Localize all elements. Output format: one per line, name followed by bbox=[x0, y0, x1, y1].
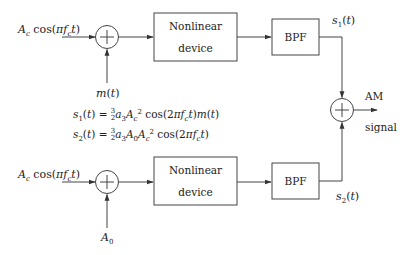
bottom-carrier-label: Ac cos(πfct) bbox=[18, 169, 80, 183]
bottom-bpf-text: BPF bbox=[272, 176, 319, 187]
top-nonlinear-text-1: Nonlinear bbox=[154, 21, 237, 32]
top-nonlinear-text-2: device bbox=[154, 43, 237, 54]
s1-label: s1(t) bbox=[332, 15, 355, 29]
bottom-nonlinear-text-2: device bbox=[154, 187, 237, 198]
top-bpf-to-out-wire bbox=[319, 37, 342, 98]
signal-label: signal bbox=[365, 122, 397, 133]
am-label: AM bbox=[365, 91, 383, 102]
equation-s2: s2(t) = 32a3A0Ac2 cos(2πfct) bbox=[73, 128, 209, 143]
top-carrier-label: Ac cos(πfct) bbox=[18, 24, 80, 38]
top-m-label: m(t) bbox=[96, 88, 119, 99]
equation-s1: s1(t) = 32a3Ac2 cos(2πfct)m(t) bbox=[73, 108, 219, 123]
a0-label: A0 bbox=[101, 232, 113, 246]
top-bpf-text: BPF bbox=[272, 32, 319, 43]
s2-label: s2(t) bbox=[336, 191, 359, 205]
bot-bpf-to-out-wire bbox=[319, 123, 342, 182]
bottom-nonlinear-text-1: Nonlinear bbox=[154, 165, 237, 176]
